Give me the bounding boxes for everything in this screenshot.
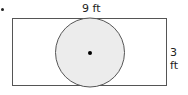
center-dot (88, 51, 92, 55)
width-label: 9 ft (82, 2, 101, 15)
height-label: 3 ft (170, 46, 188, 72)
